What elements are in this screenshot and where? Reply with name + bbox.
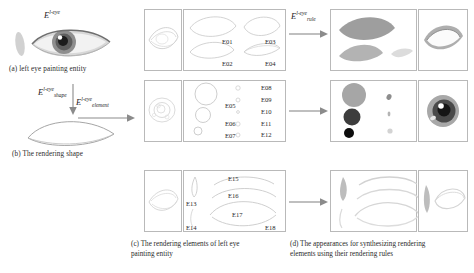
element-label-E09: E09 [261,96,272,103]
arrow-element-right [78,112,136,124]
arrow-rule-row3 [289,196,329,208]
label-entity: El-eye [44,9,60,20]
element-label-E17: E17 [232,211,243,218]
element-label-E01: E01 [222,38,233,45]
element-label-E13: E13 [186,200,197,207]
appearance-row-shape-composite [418,9,468,71]
arrow-rule-row1 [289,28,329,40]
caption-c-line2: painting entity [131,250,271,260]
element-label-E02: E02 [222,60,233,67]
preview-row-lashes [144,170,182,232]
element-label-E08: E08 [261,84,272,91]
appearance-row-iris-composite [418,80,468,142]
label-element: El-eyeelement [76,96,109,108]
figure-root: El-eye (a) left eye painting entity El-e… [0,0,474,273]
caption-b: (b) The rendering shape [12,150,83,158]
arrow-rule-row2 [289,105,329,117]
element-label-E16: E16 [228,192,239,199]
element-label-E05: E05 [225,102,236,109]
label-shape: El-eyeshape [38,86,67,98]
element-label-E12: E12 [261,131,272,138]
appearance-row-iris-parts [330,80,417,142]
caption-c-line1: (c) The rendering elements of left eye [131,240,271,250]
element-label-E14: E14 [186,224,197,231]
preview-row-iris [144,80,182,142]
caption-d-line1: (d) The appearances for synthesizing ren… [290,240,470,250]
eye-photo-entity [6,22,136,62]
element-label-E07: E07 [225,132,236,139]
caption-d: (d) The appearances for synthesizing ren… [290,240,470,259]
caption-c: (c) The rendering elements of left eye p… [131,240,271,259]
caption-a: (a) left eye painting entity [9,65,86,73]
element-label-E18: E18 [265,224,276,231]
element-label-E06: E06 [225,120,236,127]
element-label-E03: E03 [265,38,276,45]
appearance-row-shape-parts [330,9,417,71]
preview-row-shape [144,9,182,71]
element-label-E15: E15 [228,175,239,182]
label-rule: El-eyerule [291,10,316,22]
caption-d-line2: elements using their rendering rules [290,250,470,260]
element-label-E10: E10 [261,108,272,115]
appearance-row-lashes-composite [418,170,468,232]
element-label-E04: E04 [265,60,276,67]
element-label-E11: E11 [261,120,271,127]
appearance-row-lashes-parts [330,170,417,232]
